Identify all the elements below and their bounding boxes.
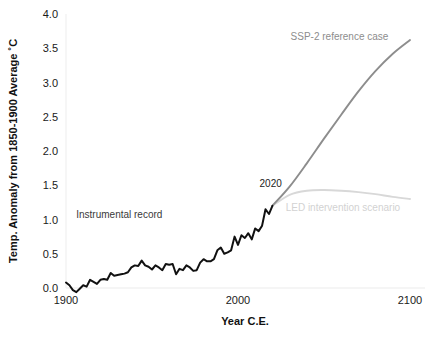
y-tick-label-3.0: 3.0 — [43, 77, 58, 89]
y-tick-label-3.5: 3.5 — [43, 42, 58, 54]
x-tick-label-2100: 2100 — [398, 294, 422, 306]
chart-series-group — [66, 40, 410, 292]
y-tick-label-0.5: 0.5 — [43, 248, 58, 260]
y-tick-label-2.0: 2.0 — [43, 145, 58, 157]
axis-lines — [66, 14, 425, 288]
x-tick-label-1900: 1900 — [54, 294, 78, 306]
x-tick-label-2000: 2000 — [226, 294, 250, 306]
y-tick-label-1.0: 1.0 — [43, 214, 58, 226]
y-tick-label-0.0: 0.0 — [43, 282, 58, 294]
x-axis-tick-labels: 190020002100 — [54, 294, 422, 306]
led-intervention-label: LED intervention scenario — [286, 202, 401, 213]
branch-year-label: 2020 — [260, 178, 283, 189]
ssp2-reference-label: SSP-2 reference case — [291, 31, 389, 42]
y-axis-title: Temp. Anomaly from 1850-1900 Average ˚C — [7, 39, 19, 263]
y-tick-label-4.0: 4.0 — [43, 8, 58, 20]
chart-page: 0.00.51.01.52.02.53.03.54.0 190020002100… — [0, 0, 441, 337]
y-axis-tick-labels: 0.00.51.01.52.02.53.03.54.0 — [43, 8, 58, 294]
temperature-anomaly-chart: 0.00.51.01.52.02.53.03.54.0 190020002100… — [0, 0, 441, 337]
y-tick-label-1.5: 1.5 — [43, 179, 58, 191]
x-axis-title: Year C.E. — [221, 315, 269, 327]
y-tick-label-2.5: 2.5 — [43, 111, 58, 123]
series-line-ssp-2-reference-case — [272, 40, 410, 206]
instrumental-record-label: Instrumental record — [76, 209, 162, 220]
